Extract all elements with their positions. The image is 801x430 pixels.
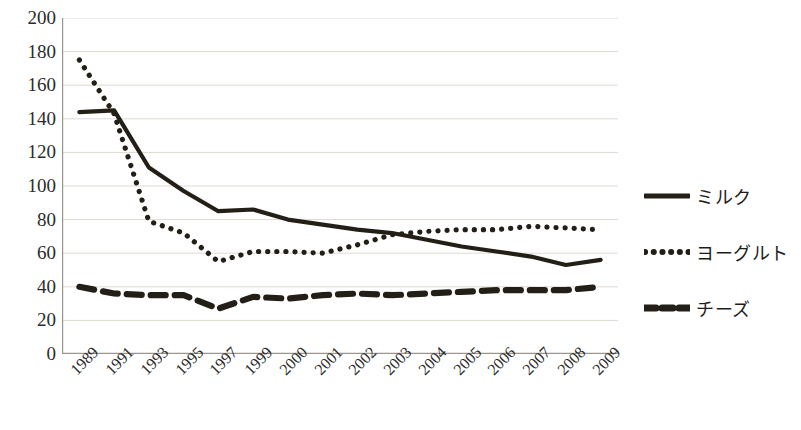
series-line-1 — [79, 60, 600, 262]
chart-canvas — [62, 18, 618, 354]
legend-label-2: チーズ — [696, 295, 751, 321]
legend-item-0[interactable]: ミルク — [644, 168, 801, 224]
legend-item-1[interactable]: ヨーグルト — [644, 224, 801, 280]
y-tick-label: 140 — [4, 109, 56, 128]
series-line-0 — [79, 110, 600, 265]
y-axis-labels: 200180160140120100806040200 — [0, 0, 56, 430]
series-line-2 — [79, 287, 600, 309]
legend-label-1: ヨーグルト — [696, 239, 789, 265]
y-tick-label: 60 — [4, 243, 56, 262]
chart-figure: 200180160140120100806040200 198919911993… — [0, 0, 801, 430]
plot-area — [62, 18, 618, 354]
legend-item-2[interactable]: チーズ — [644, 280, 801, 336]
y-tick-label: 180 — [4, 42, 56, 61]
y-tick-label: 100 — [4, 176, 56, 195]
y-tick-label: 80 — [4, 210, 56, 229]
legend-label-0: ミルク — [696, 183, 752, 209]
y-tick-label: 40 — [4, 277, 56, 296]
x-axis-labels: 1989199119931995199719992000200120022003… — [62, 356, 622, 430]
legend-swatch-dashed-icon — [644, 301, 690, 315]
chart-legend: ミルクヨーグルトチーズ — [644, 168, 801, 336]
legend-swatch-dotted-icon — [644, 245, 690, 259]
y-tick-label: 120 — [4, 142, 56, 161]
y-tick-label: 0 — [4, 344, 56, 363]
y-tick-label: 160 — [4, 75, 56, 94]
y-tick-label: 20 — [4, 310, 56, 329]
y-tick-label: 200 — [4, 8, 56, 27]
legend-swatch-solid-icon — [644, 189, 690, 203]
